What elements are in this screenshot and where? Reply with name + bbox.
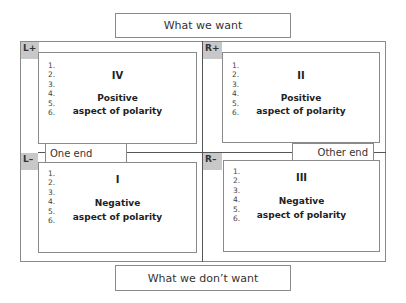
one-end-label: One end bbox=[50, 148, 92, 159]
quadrant-title-line1: Positive bbox=[39, 91, 196, 105]
horizontal-divider-right-stub bbox=[374, 152, 386, 153]
quadrant-numeral: III bbox=[224, 172, 379, 183]
other-end-box: Other end bbox=[292, 143, 374, 161]
quadrant-numeral: I bbox=[39, 174, 196, 185]
tag-r-minus: R– bbox=[203, 153, 222, 170]
quadrant-title-line2: aspect of polarity bbox=[224, 208, 379, 222]
quadrant-title-line2: aspect of polarity bbox=[39, 104, 196, 118]
list-item: 3. bbox=[48, 80, 55, 89]
quadrant-iii: 1. 2. 3. 4. 5. 6. III Negative aspect of… bbox=[223, 160, 380, 252]
what-we-dont-want-box: What we don’t want bbox=[115, 265, 291, 291]
quadrant-title-line1: Positive bbox=[223, 91, 379, 105]
list-item: 1. bbox=[48, 61, 55, 70]
list-item: 1. bbox=[232, 61, 239, 70]
tag-l-minus: L– bbox=[21, 153, 38, 170]
tag-r-plus: R+ bbox=[203, 42, 222, 59]
what-we-want-label: What we want bbox=[164, 19, 243, 32]
quadrant-numeral: II bbox=[223, 70, 379, 81]
what-we-want-box: What we want bbox=[115, 13, 291, 38]
quadrant-title-line2: aspect of polarity bbox=[39, 210, 196, 224]
quadrant-i: 1. 2. 3. 4. 5. 6. I Negative aspect of p… bbox=[38, 162, 197, 253]
quadrant-ii: 1. 2. 3. 4. 5. 6. II Positive aspect of … bbox=[222, 52, 380, 143]
one-end-box: One end bbox=[45, 143, 127, 163]
quadrant-iv: 1. 2. 3. 4. 5. 6. IV Positive aspect of … bbox=[38, 52, 197, 144]
what-we-dont-want-label: What we don’t want bbox=[148, 272, 259, 285]
quadrant-title-line2: aspect of polarity bbox=[223, 104, 379, 118]
quadrant-title-line1: Negative bbox=[224, 194, 379, 208]
quadrant-title-line1: Negative bbox=[39, 196, 196, 210]
other-end-label: Other end bbox=[318, 147, 368, 158]
list-item: 3. bbox=[232, 80, 239, 89]
quadrant-numeral: IV bbox=[39, 70, 196, 81]
tag-l-plus: L+ bbox=[21, 42, 39, 59]
